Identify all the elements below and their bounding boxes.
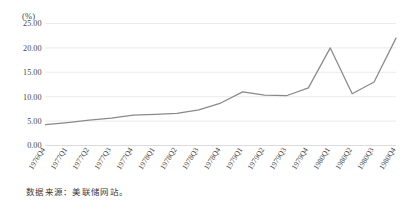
line-chart: 0.005.0010.0015.0020.0025.00 1976Q41977Q… — [0, 0, 404, 209]
x-axis-tick-label: 1979Q1 — [224, 146, 245, 172]
x-axis-tick-label: 1977Q1 — [49, 146, 70, 172]
x-axis-tick-label: 1978Q2 — [158, 146, 179, 172]
x-axis-tick-label: 1980Q2 — [333, 146, 354, 172]
y-axis-tick-labels: 0.005.0010.0015.0020.0025.00 — [23, 19, 41, 150]
source-note: 数据来源：美联储网站。 — [26, 185, 128, 197]
x-axis-tick-label: 1980Q1 — [311, 146, 332, 172]
y-axis-tick-label: 20.00 — [23, 44, 41, 53]
x-axis-tick-label: 1978Q3 — [180, 146, 201, 172]
x-axis-tick-label: 1977Q3 — [92, 146, 113, 172]
y-axis-tick-label: 25.00 — [23, 19, 41, 28]
chart-figure: (%) 0.005.0010.0015.0020.0025.00 1976Q41… — [0, 0, 404, 209]
y-axis-tick-label: 10.00 — [23, 93, 41, 102]
x-axis-tick-label: 1977Q4 — [114, 146, 135, 172]
gridlines-group — [46, 24, 397, 146]
x-axis-tick-label: 1979Q4 — [289, 146, 310, 172]
x-axis-tick-label: 1979Q2 — [246, 146, 267, 172]
x-axis-tick-label: 1979Q3 — [268, 146, 289, 172]
x-axis-tick-label: 1977Q2 — [70, 146, 91, 172]
x-axis-tick-label: 1980Q3 — [355, 146, 376, 172]
data-line — [46, 38, 397, 124]
data-series-group — [46, 38, 397, 124]
x-axis-tick-label: 1978Q4 — [202, 146, 223, 172]
x-axis-tick-labels: 1976Q41977Q11977Q21977Q31977Q41978Q11978… — [27, 146, 398, 172]
x-axis-tick-label: 1980Q4 — [377, 146, 398, 172]
y-axis-tick-label: 5.00 — [27, 117, 41, 126]
y-axis-tick-label: 15.00 — [23, 68, 41, 77]
x-axis-tick-label: 1978Q1 — [136, 146, 157, 172]
